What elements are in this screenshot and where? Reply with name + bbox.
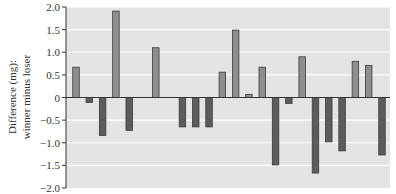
y-tick-label: 0 xyxy=(55,92,61,104)
bar-negative xyxy=(339,98,346,151)
bar-negative xyxy=(179,98,186,127)
bar-positive xyxy=(113,11,120,97)
bar-positive xyxy=(219,72,226,97)
y-tick-label: −1.5 xyxy=(40,159,60,171)
bar-positive xyxy=(153,48,160,98)
y-tick-label: 1.5 xyxy=(46,24,60,36)
bar-positive xyxy=(299,57,306,98)
bar-negative xyxy=(206,98,213,127)
y-axis-label-line-2: winner minus loser xyxy=(20,55,32,140)
bar-negative xyxy=(272,98,279,165)
bar-negative xyxy=(126,98,133,131)
bar-positive xyxy=(352,61,359,97)
bar-negative xyxy=(286,98,293,104)
y-tick-label: −2.0 xyxy=(40,182,60,194)
y-tick-label: −1.0 xyxy=(40,137,60,149)
y-tick-label: −0.5 xyxy=(40,114,60,126)
bar-positive xyxy=(365,65,372,97)
bar-negative xyxy=(312,98,319,174)
bar-negative xyxy=(326,98,333,142)
bar-chart: 2.01.51.00.50−0.5−1.0−1.5−2.0 Difference… xyxy=(0,0,396,194)
bar-negative xyxy=(379,98,386,155)
y-tick-label: 0.5 xyxy=(46,69,60,81)
bar-negative xyxy=(86,98,93,103)
bar-negative xyxy=(99,98,106,136)
bar-positive xyxy=(73,67,80,97)
bar-negative xyxy=(192,98,199,127)
y-axis-label-line-1: Difference (mg): xyxy=(6,60,19,134)
bar-positive xyxy=(232,30,239,97)
y-tick-label: 2.0 xyxy=(46,1,60,13)
y-axis-ticks: 2.01.51.00.50−0.5−1.0−1.5−2.0 xyxy=(40,1,66,194)
y-tick-label: 1.0 xyxy=(46,46,60,58)
bar-positive xyxy=(259,67,266,97)
